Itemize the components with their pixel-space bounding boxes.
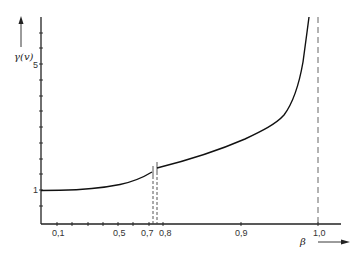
axis-break-marker	[153, 162, 157, 224]
gamma-curve-right	[157, 17, 309, 168]
y-tick-label-5: 5	[33, 60, 38, 70]
gamma-curve-left	[41, 172, 152, 191]
x-tick-label-0.5: 0,5	[113, 228, 126, 238]
gamma-factor-chart: 1 5 γ(v) 0,1 0,5 0,7 0,8 0,9 1,0 β	[0, 0, 358, 255]
x-tick-label-0.9: 0,9	[235, 228, 248, 238]
y-axis-title: γ(v)	[14, 51, 34, 62]
x-axis-arrow-icon	[341, 240, 350, 245]
y-tick-label-1: 1	[33, 185, 38, 195]
x-axis-title: β	[299, 236, 306, 247]
x-tick-label-1.0: 1,0	[313, 228, 326, 238]
x-tick-label-0.7: 0,7	[141, 228, 154, 238]
x-tick-label-0.1: 0,1	[52, 228, 65, 238]
y-axis-arrow-icon	[19, 16, 24, 24]
x-tick-label-0.8: 0,8	[159, 228, 172, 238]
